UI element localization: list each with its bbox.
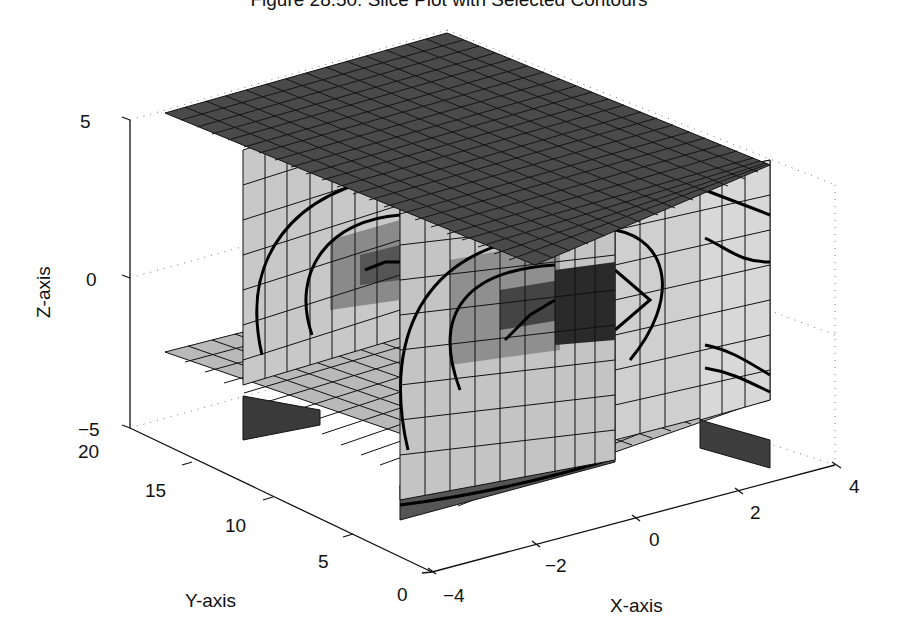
x-tick-label: −2 bbox=[545, 555, 567, 576]
x-tick-label: 4 bbox=[849, 476, 860, 497]
y-tick-label: 20 bbox=[78, 441, 99, 462]
x-tick-label: 2 bbox=[750, 502, 761, 523]
y-tick-label: 0 bbox=[397, 584, 408, 605]
x-axis-label: X-axis bbox=[610, 595, 663, 616]
x-tick-label: −4 bbox=[443, 585, 465, 606]
z-tick-label: 5 bbox=[80, 111, 91, 132]
z-tick-label: 0 bbox=[86, 269, 97, 290]
y-axis-label: Y-axis bbox=[185, 590, 236, 611]
x-tick-label: 0 bbox=[649, 529, 660, 550]
z-axis-label: Z-axis bbox=[33, 266, 54, 318]
y-tick-label: 10 bbox=[225, 515, 246, 536]
slice-plot: 5 0 −5 20 15 10 5 0 −4 −2 0 2 4 Y-axis X… bbox=[0, 0, 898, 641]
y-tick-label: 15 bbox=[145, 480, 166, 501]
y-tick-label: 5 bbox=[318, 551, 329, 572]
z-tick-label: −5 bbox=[78, 419, 100, 440]
